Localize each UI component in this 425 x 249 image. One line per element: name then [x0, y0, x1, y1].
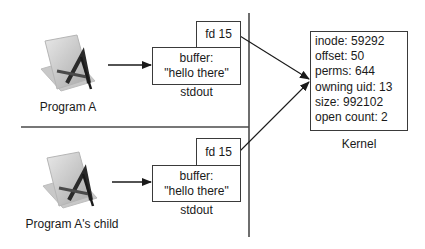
- kernel-inode: inode: 59292: [315, 34, 407, 49]
- program-a-label: Program A: [28, 100, 108, 114]
- kernel-size: size: 992102: [315, 95, 407, 110]
- kernel-owning-uid: owning uid: 13: [315, 80, 407, 95]
- program-a-buffer-value: "hello there": [153, 66, 240, 81]
- program-a-fd-label: fd 15: [205, 27, 232, 41]
- program-a-child-fd-label: fd 15: [205, 145, 232, 159]
- program-a-child-buffer-label: buffer:: [153, 169, 240, 184]
- kernel-offset: offset: 50: [315, 49, 407, 64]
- program-a-child-stream-label: stdout: [152, 203, 241, 217]
- program-a-stream-label: stdout: [152, 85, 241, 99]
- kernel-file-entry-box: inode: 59292 offset: 50 perms: 644 ownin…: [310, 31, 408, 131]
- program-a-fd-box: fd 15: [196, 21, 241, 48]
- program-a-child-buffer-box: buffer: "hello there": [152, 165, 241, 202]
- program-a-icon: [37, 33, 99, 97]
- program-a-child-label: Program A's child: [20, 217, 124, 231]
- arrow-fd-child-to-kernel: [240, 82, 309, 151]
- program-a-buffer-label: buffer:: [153, 51, 240, 66]
- program-a-buffer-box: buffer: "hello there": [152, 47, 241, 85]
- kernel-label: Kernel: [310, 137, 408, 151]
- program-a-child-fd-box: fd 15: [196, 138, 241, 166]
- kernel-open-count: open count: 2: [315, 110, 407, 125]
- program-a-child-icon: [39, 150, 101, 214]
- arrow-fd-a-to-kernel: [240, 36, 309, 79]
- kernel-perms: perms: 644: [315, 64, 407, 79]
- program-a-child-buffer-value: "hello there": [153, 184, 240, 199]
